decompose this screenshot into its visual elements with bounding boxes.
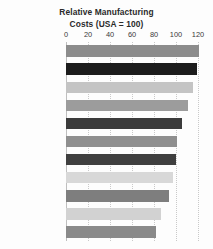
bar-mexico bbox=[66, 208, 161, 219]
bar-row: Japan bbox=[66, 114, 198, 132]
bar-row: Finland bbox=[66, 78, 198, 96]
bar-row: Poland bbox=[66, 169, 198, 187]
bar-row: Indonesia bbox=[66, 223, 198, 241]
x-tick-label-20: 20 bbox=[84, 30, 92, 39]
gridline-120 bbox=[198, 42, 200, 241]
bar-united-states bbox=[66, 154, 176, 165]
bar-row: Mexico bbox=[66, 205, 198, 223]
x-tick-label-40: 40 bbox=[106, 30, 114, 39]
x-tick-label-120: 120 bbox=[192, 30, 204, 39]
bar-japan bbox=[66, 118, 182, 129]
bar-poland bbox=[66, 172, 173, 183]
bar-australia bbox=[66, 100, 188, 111]
x-tick-label-80: 80 bbox=[150, 30, 158, 39]
bar-row: Germany bbox=[66, 60, 198, 78]
bar-chart: Relative Manufacturing Costs (USA = 100)… bbox=[0, 0, 213, 249]
x-tick-label-100: 100 bbox=[170, 30, 182, 39]
bar-row: Switzerland bbox=[66, 42, 198, 60]
bar-germany bbox=[66, 63, 197, 74]
bar-south-korea bbox=[66, 136, 177, 147]
chart-title-line-2: Costs (USA = 100) bbox=[0, 19, 213, 31]
chart-title-line-1: Relative Manufacturing bbox=[0, 7, 213, 19]
chart-title: Relative Manufacturing Costs (USA = 100) bbox=[0, 7, 213, 30]
x-tick-label-60: 60 bbox=[128, 30, 136, 39]
bar-china bbox=[66, 190, 169, 201]
x-tick-label-0: 0 bbox=[64, 30, 68, 39]
bar-indonesia bbox=[66, 226, 156, 237]
bar-row: China bbox=[66, 187, 198, 205]
bar-row: South Korea bbox=[66, 132, 198, 150]
bar-switzerland bbox=[66, 45, 199, 56]
bar-row: Australia bbox=[66, 96, 198, 114]
plot-area: 020406080100120 SwitzerlandGermanyFinlan… bbox=[66, 42, 198, 241]
bar-row: United States bbox=[66, 151, 198, 169]
bar-finland bbox=[66, 82, 193, 93]
